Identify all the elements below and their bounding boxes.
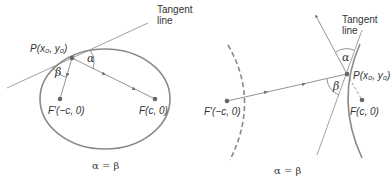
focal-radius-left	[60, 58, 72, 99]
hyperbola-left-branch	[228, 45, 245, 160]
beta-label: β	[54, 66, 61, 79]
hyperbola-right-branch	[348, 44, 362, 158]
diagram-canvas: Tangent line P(x₀, y₀) α β F′(−c, 0) F(c…	[0, 0, 392, 179]
equation-label: α = β	[92, 160, 119, 171]
point-p	[70, 56, 75, 61]
tangent-label-h: Tangent	[342, 14, 378, 25]
beta-label-2: β	[332, 80, 339, 93]
tangent-label: Tangent	[157, 4, 193, 15]
alpha-label: α	[87, 52, 95, 65]
incoming-ray	[227, 74, 347, 101]
right-focus-label-2: F(c, 0)	[350, 106, 379, 117]
right-focus-label: F(c, 0)	[139, 105, 168, 116]
equation-label-2: α = β	[274, 165, 301, 176]
point-p-label: P(x₀, y₀)	[30, 43, 67, 54]
left-focus-label: F′(−c, 0)	[48, 105, 85, 116]
focus-right-2	[360, 98, 365, 103]
alpha-label-2: α	[342, 51, 350, 64]
tangent-line-2	[317, 30, 362, 155]
focus-left-2	[225, 99, 230, 104]
focal-radius-right	[72, 58, 155, 99]
tangent-line	[7, 23, 148, 88]
tangent-label-h-2: line	[342, 25, 358, 36]
left-focus-label-2: F′(−c, 0)	[204, 106, 241, 117]
focus-right	[153, 97, 158, 102]
tangent-label-2: line	[157, 15, 173, 26]
point-p-label-2: P(x₀, y₀)	[353, 70, 390, 81]
point-p-2	[345, 72, 350, 77]
hyperbola-figure: Tangent line P(x₀, y₀) α β F′(−c, 0) F(c…	[204, 14, 390, 176]
focus-left	[58, 97, 63, 102]
ellipse-figure: Tangent line P(x₀, y₀) α β F′(−c, 0) F(c…	[7, 4, 193, 171]
